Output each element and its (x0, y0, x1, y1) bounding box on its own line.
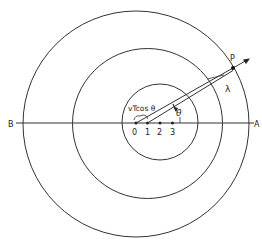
wavefront-diagram: B A 0 1 2 3 P λ θ vTcos θ (0, 0, 262, 246)
axis-label-b: B (8, 120, 14, 129)
source-label-0: 0 (132, 128, 137, 137)
point-p (231, 66, 235, 70)
wavelength-label: λ (225, 84, 231, 94)
source-label-1: 1 (145, 128, 150, 137)
source-point-3 (171, 122, 174, 125)
axis-label-a: A (254, 120, 260, 129)
point-p-label: P (230, 54, 235, 63)
source-label-2: 2 (157, 128, 162, 137)
displacement-label: vTcos θ (128, 104, 156, 113)
source-point-2 (159, 122, 162, 125)
source-label-3: 3 (170, 128, 175, 137)
ray-from-1 (148, 71, 234, 124)
